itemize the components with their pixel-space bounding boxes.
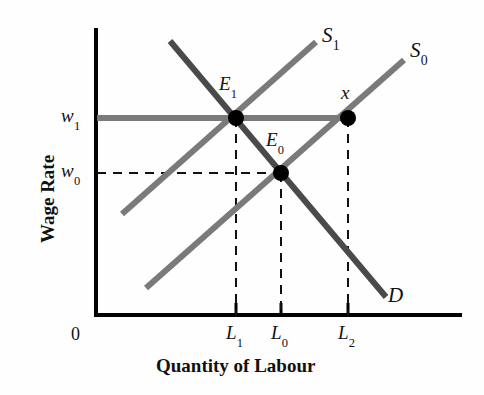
point-label-E1-base: E [219, 73, 231, 94]
y-tick-label-w1-sub: 1 [74, 119, 80, 133]
point-label-E0: E0 [266, 130, 284, 153]
x-tick-label-L1-base: L [226, 322, 237, 343]
x-tick-label-L0-sub: 0 [282, 336, 288, 350]
point-label-E1-sub: 1 [231, 87, 237, 101]
x-tick-label-L2: L2 [338, 323, 355, 346]
curve-label-S1-base: S [322, 23, 333, 47]
curve-label-S0-base: S [410, 38, 421, 62]
y-tick-label-w1-base: w [61, 105, 74, 126]
supply-curve-group [97, 42, 404, 288]
labour-market-diagram: Wage Rate Quantity of Labour 0 w1 w0 L1 … [0, 0, 484, 395]
y-tick-label-w0-base: w [61, 160, 74, 181]
y-axis-title: Wage Rate [38, 155, 57, 243]
x-tick-label-L0-base: L [271, 322, 282, 343]
x-tick-label-L2-base: L [338, 322, 349, 343]
curve-label-S1: S1 [322, 25, 339, 50]
y-tick-label-w0: w0 [61, 161, 80, 184]
x-tick-label-L1: L1 [226, 323, 243, 346]
point-label-x: x [341, 83, 349, 106]
y-tick-label-w0-sub: 0 [74, 174, 80, 188]
origin-label: 0 [71, 325, 80, 343]
marker-E0 [273, 165, 289, 181]
point-label-E0-sub: 0 [278, 143, 284, 157]
y-tick-label-w1: w1 [61, 106, 80, 129]
x-tick-label-L1-sub: 1 [237, 336, 243, 350]
x-tick-label-L0: L0 [271, 323, 288, 346]
curve-label-D: D [388, 285, 403, 310]
curve-label-D-base: D [388, 283, 403, 307]
curve-label-S1-sub: 1 [333, 38, 340, 53]
point-label-x-base: x [341, 82, 349, 103]
x-tick-label-L2-sub: 2 [349, 336, 355, 350]
point-label-E0-base: E [266, 129, 278, 150]
marker-E1 [228, 110, 244, 126]
supply-curve-S1 [122, 42, 316, 214]
point-label-E1: E1 [219, 74, 237, 97]
marker-x [340, 110, 356, 126]
curve-label-S0: S0 [410, 40, 427, 65]
x-axis-title: Quantity of Labour [156, 356, 315, 375]
curve-label-S0-sub: 0 [421, 53, 428, 68]
